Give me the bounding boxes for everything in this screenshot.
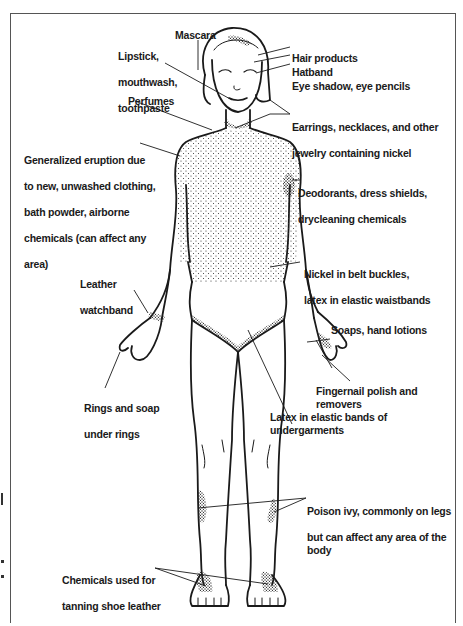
label-line: chemicals (can affect any bbox=[24, 232, 156, 245]
label-line: under rings bbox=[84, 428, 159, 441]
label-latex-undergarments: Latex in elastic bands of undergarments bbox=[270, 411, 463, 437]
label-perfumes: Perfumes bbox=[128, 95, 174, 108]
label-line: tanning shoe leather bbox=[62, 600, 161, 613]
label-line: watchband bbox=[80, 304, 133, 317]
label-line: to new, unwashed clothing, bbox=[24, 180, 156, 193]
label-soaps: Soaps, hand lotions bbox=[331, 324, 427, 337]
label-deodorants: Deodorants, dress shields, drycleaning c… bbox=[298, 174, 427, 239]
label-line: bath powder, airborne bbox=[24, 206, 156, 219]
label-line: drycleaning chemicals bbox=[298, 213, 427, 226]
label-line: Poison ivy, commonly on legs bbox=[307, 505, 463, 518]
label-fingernail: Fingernail polish and removers bbox=[316, 385, 463, 411]
label-line: latex in elastic waistbands bbox=[304, 294, 431, 307]
label-lipstick: Lipstick, mouthwash, toothpaste bbox=[118, 37, 177, 128]
label-nickel-belt: Nickel in belt buckles, latex in elastic… bbox=[304, 255, 431, 320]
label-mascara: Mascara bbox=[175, 29, 216, 42]
label-line: Rings and soap bbox=[84, 402, 159, 415]
label-shoe-leather: Chemicals used for tanning shoe leather bbox=[62, 561, 161, 626]
label-line: mouthwash, bbox=[118, 76, 177, 89]
label-line: Earrings, necklaces, and other bbox=[292, 121, 438, 134]
label-line: but can affect any area of the body bbox=[307, 531, 463, 557]
label-hatband: Hatband bbox=[292, 66, 333, 79]
label-hair-products: Hair products bbox=[292, 52, 358, 65]
label-line: Generalized eruption due bbox=[24, 154, 156, 167]
label-line: Chemicals used for bbox=[62, 574, 161, 587]
label-line: Leather bbox=[80, 278, 133, 291]
label-rings: Rings and soap under rings bbox=[84, 389, 159, 454]
label-generalized: Generalized eruption due to new, unwashe… bbox=[24, 141, 156, 284]
label-line: Lipstick, bbox=[118, 50, 177, 63]
label-leather-watchband: Leather watchband bbox=[80, 265, 133, 330]
label-line: Nickel in belt buckles, bbox=[304, 268, 431, 281]
label-eye-shadow: Eye shadow, eye pencils bbox=[292, 80, 410, 93]
label-poison-ivy: Poison ivy, commonly on legs but can aff… bbox=[307, 492, 463, 570]
label-earrings: Earrings, necklaces, and other jewelry c… bbox=[292, 108, 438, 173]
label-line: Deodorants, dress shields, bbox=[298, 187, 427, 200]
label-line: jewelry containing nickel bbox=[292, 147, 438, 160]
